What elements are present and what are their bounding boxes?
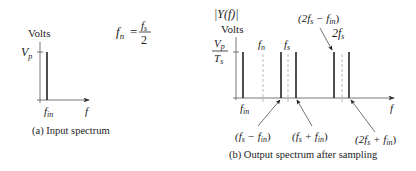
annotation-fs-minus-fin: (fs − fin) [235, 130, 271, 144]
y-axis-label: Volts [28, 27, 50, 39]
sampling-spectrum-diagram: fn = fs 2 Volts Vp fin f (a) Input spect… [0, 0, 416, 171]
x-tick-fin: fin [44, 105, 53, 119]
x-axis-label: f [85, 105, 90, 117]
svg-text:fn: fn [258, 38, 265, 52]
y-axis-title: |Y(f)| [214, 7, 239, 21]
svg-text:fn: fn [116, 24, 125, 41]
svg-text:fs: fs [141, 19, 147, 33]
caption-a: (a) Input spectrum [32, 125, 110, 137]
nyquist-formula: fn = fs 2 [116, 19, 151, 47]
svg-text:Ts: Ts [214, 52, 223, 66]
svg-text:Vp: Vp [214, 37, 225, 51]
caption-b: (b) Output spectrum after sampling [229, 149, 378, 161]
y-tick-vp: Vp [21, 45, 32, 61]
annotation-2fs-minus-fin: (2fs − fin) [298, 12, 340, 26]
svg-text:=: = [130, 24, 137, 39]
input-spectrum-plot: Volts Vp fin f (a) Input spectrum [21, 27, 110, 137]
annotation-fs-plus-fin: (fs + fin) [292, 130, 328, 144]
svg-text:2fs: 2fs [332, 26, 344, 41]
svg-text:fs: fs [284, 38, 290, 52]
annotation-2fs-plus-fin: (2fs + fin) [355, 133, 397, 147]
x-axis-label: f [390, 102, 395, 114]
y-axis-label: Volts [221, 23, 243, 35]
x-tick-fin: fin [240, 102, 249, 116]
svg-text:2: 2 [141, 33, 147, 47]
output-spectrum-plot: |Y(f)| Volts Vp Ts fn fs 2fs fin f (fs −… [212, 7, 397, 161]
